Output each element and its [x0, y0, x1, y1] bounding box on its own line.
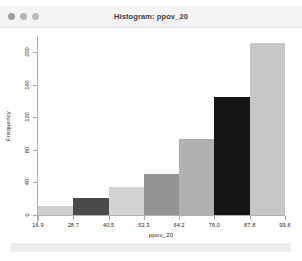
y-tick-label: 120 [22, 117, 31, 118]
window-title-bar: Histogram: ppov_20 [0, 6, 302, 28]
x-tick-mark [38, 216, 39, 220]
y-tick-label: 40 [22, 182, 31, 183]
y-axis-title: Frequency [5, 111, 11, 141]
window-title: Histogram: ppov_20 [0, 6, 302, 28]
y-tick-mark [33, 182, 37, 183]
y-tick-label: 160 [22, 85, 31, 86]
histogram-bar [38, 206, 73, 215]
footer-bar [11, 243, 291, 252]
histogram-bar [109, 187, 144, 215]
histogram-bar [144, 174, 179, 215]
x-tick-label: 52.3 [138, 222, 149, 228]
x-tick-mark [285, 216, 286, 220]
x-tick-mark [214, 216, 215, 220]
x-axis-title: ppov_20 [149, 232, 173, 238]
y-tick-label: 80 [22, 150, 31, 151]
y-tick-mark [33, 150, 37, 151]
x-tick-mark [109, 216, 110, 220]
x-tick-label: 40.5 [103, 222, 114, 228]
histogram-bars [38, 36, 285, 215]
histogram-bar [214, 97, 249, 215]
x-tick-mark [179, 216, 180, 220]
y-tick-label: 0 [22, 215, 31, 216]
x-tick-mark [144, 216, 145, 220]
y-tick-mark [33, 52, 37, 53]
histogram-bar [179, 139, 214, 215]
x-tick-label: 76.0 [209, 222, 220, 228]
y-tick-mark [33, 85, 37, 86]
x-tick-label: 28.7 [68, 222, 79, 228]
histogram-bar [250, 43, 285, 215]
x-tick-label: 99.6 [279, 222, 290, 228]
x-tick-label: 64.2 [173, 222, 184, 228]
y-tick-mark [33, 215, 37, 216]
histogram-plot: 04080120160200 Frequency 16.928.740.552.… [0, 28, 302, 233]
x-tick-mark [73, 216, 74, 220]
y-tick-mark [33, 117, 37, 118]
y-tick-label: 200 [22, 52, 31, 53]
x-tick-label: 16.9 [32, 222, 43, 228]
x-tick-label: 87.8 [244, 222, 255, 228]
histogram-bar [73, 198, 108, 215]
x-tick-mark [250, 216, 251, 220]
histogram-window: Histogram: ppov_20 04080120160200 Freque… [0, 0, 302, 261]
